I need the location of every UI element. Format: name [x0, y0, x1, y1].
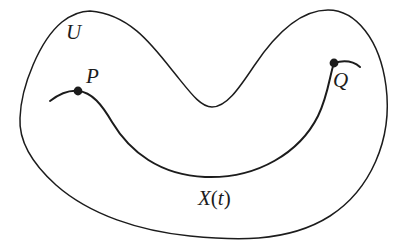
- diagram-svg: [0, 0, 409, 248]
- label-curve-x: X: [198, 186, 211, 210]
- figure-canvas: U P Q X(t): [0, 0, 409, 248]
- label-curve-paren-open: (: [211, 186, 218, 210]
- label-point-q: Q: [333, 70, 348, 91]
- point-marker-p: [74, 87, 83, 96]
- label-point-p: P: [86, 66, 99, 87]
- label-curve-xt: X(t): [198, 188, 231, 209]
- point-marker-q: [330, 59, 339, 68]
- label-curve-paren-close: ): [224, 186, 231, 210]
- label-region-u: U: [66, 22, 81, 43]
